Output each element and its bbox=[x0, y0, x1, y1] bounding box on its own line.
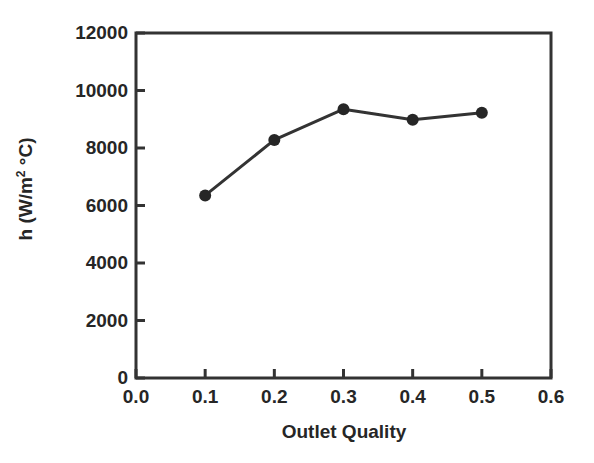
data-point-marker bbox=[268, 134, 280, 146]
axes-frame bbox=[136, 33, 551, 378]
data-point-marker bbox=[476, 107, 488, 119]
data-point-marker bbox=[407, 114, 419, 126]
data-point-marker bbox=[338, 103, 350, 115]
chart-figure: h (W/m2 °C) 0 2000 4000 6000 8000 10000 … bbox=[0, 0, 594, 463]
plot-frame bbox=[136, 33, 551, 378]
data-series-line bbox=[205, 109, 482, 195]
plot-area bbox=[0, 0, 594, 463]
data-point-marker bbox=[199, 189, 211, 201]
